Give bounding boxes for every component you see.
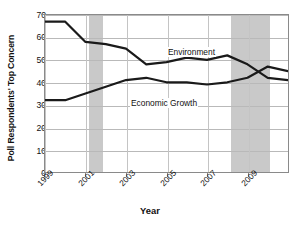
plot-area: Environment Economic Growth bbox=[44, 14, 289, 173]
series-label-economic-growth: Economic Growth bbox=[130, 98, 198, 108]
chart-container: Poll Respondents' Top Concern 70 60 50 4… bbox=[0, 0, 300, 225]
series-svg bbox=[45, 15, 288, 172]
series-label-environment: Environment bbox=[167, 47, 216, 57]
y-tick-label-70: 70 bbox=[20, 10, 46, 20]
series-line-economic-growth bbox=[45, 67, 288, 101]
y-axis-title: Poll Respondents' Top Concern bbox=[6, 13, 16, 183]
x-axis-title: Year bbox=[0, 205, 300, 216]
